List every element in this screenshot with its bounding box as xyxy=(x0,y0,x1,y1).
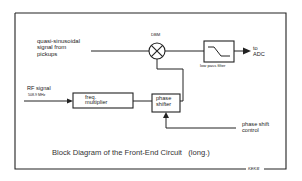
rf-frequency-label: 508.9 MHz xyxy=(28,94,45,98)
diagram-caption: Block Diagram of the Front-End Circuit (… xyxy=(52,149,210,157)
mixer-symbol xyxy=(149,43,165,59)
output-arrow xyxy=(234,48,251,55)
caption-title: Block Diagram of the Front-End Circuit xyxy=(52,148,182,157)
low-pass-filter-label: low pass filter xyxy=(200,64,225,68)
rf-input-arrow xyxy=(24,99,73,104)
pickup-label-line-3: pickups xyxy=(37,51,80,57)
caption-suffix: (long.) xyxy=(188,148,210,157)
signature-label: KEKB xyxy=(248,167,259,171)
adc-output-label: to ADC xyxy=(253,46,265,58)
pickup-signal-label: quasi-sinusoidal signal from pickups xyxy=(37,38,80,57)
rf-signal-label: RF signal xyxy=(27,86,51,92)
control-label-line-2: control xyxy=(242,128,269,134)
phase-control-label: phase shift control xyxy=(242,122,269,134)
mixer-label: DBM xyxy=(151,33,160,37)
shifter-label-line-2: shifter xyxy=(156,102,171,108)
phase-control-arrow xyxy=(163,112,236,128)
phase-shifter-label: phase shifter xyxy=(156,96,171,108)
adc-label-line-2: ADC xyxy=(253,52,265,58)
multiplier-label-line-2: multiplier xyxy=(85,100,107,106)
low-pass-filter-block xyxy=(204,41,234,62)
freq-multiplier-label: freq. multiplier xyxy=(85,95,107,107)
